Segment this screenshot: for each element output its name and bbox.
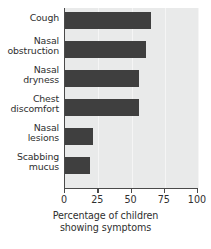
category-label-group: Cough Nasal obstruction Nasal dryness Ch… (0, 8, 62, 188)
x-axis-tick (97, 188, 98, 193)
x-axis-title-line2: showing symptoms (0, 222, 211, 234)
x-axis-tick-label: 0 (61, 194, 67, 205)
category-label-scabbing-mucus: Scabbing mucus (0, 152, 59, 172)
bar (65, 157, 90, 174)
plot-inner (65, 8, 198, 188)
bar (65, 128, 93, 145)
gridline (165, 8, 166, 188)
category-label-line2: mucus (0, 162, 59, 172)
x-axis-title: Percentage of children showing symptoms (0, 210, 211, 233)
bar (65, 41, 146, 58)
bar-chart: Cough Nasal obstruction Nasal dryness Ch… (0, 0, 211, 249)
x-axis-tick (164, 188, 165, 193)
category-label-nasal-dryness: Nasal dryness (0, 65, 59, 85)
category-label-line1: Cough (0, 13, 59, 23)
bar (65, 12, 151, 29)
category-label-line2: discomfort (0, 104, 59, 114)
x-axis-title-line1: Percentage of children (0, 210, 211, 222)
x-axis-tick-label: 25 (91, 194, 103, 205)
x-axis-tick-label: 100 (188, 194, 206, 205)
category-label-cough: Cough (0, 13, 59, 23)
x-axis-tick (197, 188, 198, 193)
plot-area (64, 8, 198, 188)
x-axis-tick (131, 188, 132, 193)
category-label-line2: obstruction (0, 46, 59, 56)
category-label-line2: dryness (0, 75, 59, 85)
category-label-nasal-lesions: Nasal lesions (0, 123, 59, 143)
category-label-nasal-obstruction: Nasal obstruction (0, 36, 59, 56)
bar (65, 70, 139, 87)
gridline (98, 8, 99, 188)
x-axis-tick-label: 75 (158, 194, 170, 205)
gridline (132, 8, 133, 188)
gridline (198, 8, 199, 188)
category-label-chest-discomfort: Chest discomfort (0, 94, 59, 114)
x-axis-tick (64, 188, 65, 193)
bar (65, 99, 139, 116)
category-label-line2: lesions (0, 133, 59, 143)
x-axis-tick-label: 50 (124, 194, 136, 205)
